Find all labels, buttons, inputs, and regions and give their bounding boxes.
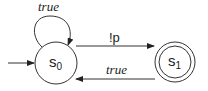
state-s0-label: s [49, 53, 57, 70]
state-s1-subscript: 1 [176, 60, 182, 71]
transition-s0-s1-label: !p [109, 30, 120, 45]
automaton-diagram: true !p true s0 s1 [0, 0, 208, 91]
self-loop-label: true [38, 0, 59, 14]
state-s1-label: s [168, 52, 176, 69]
transition-s1-s0-label: true [106, 62, 127, 77]
state-s0-subscript: 0 [57, 61, 63, 72]
state-s1: s1 [155, 42, 195, 82]
state-s0: s0 [35, 42, 77, 84]
